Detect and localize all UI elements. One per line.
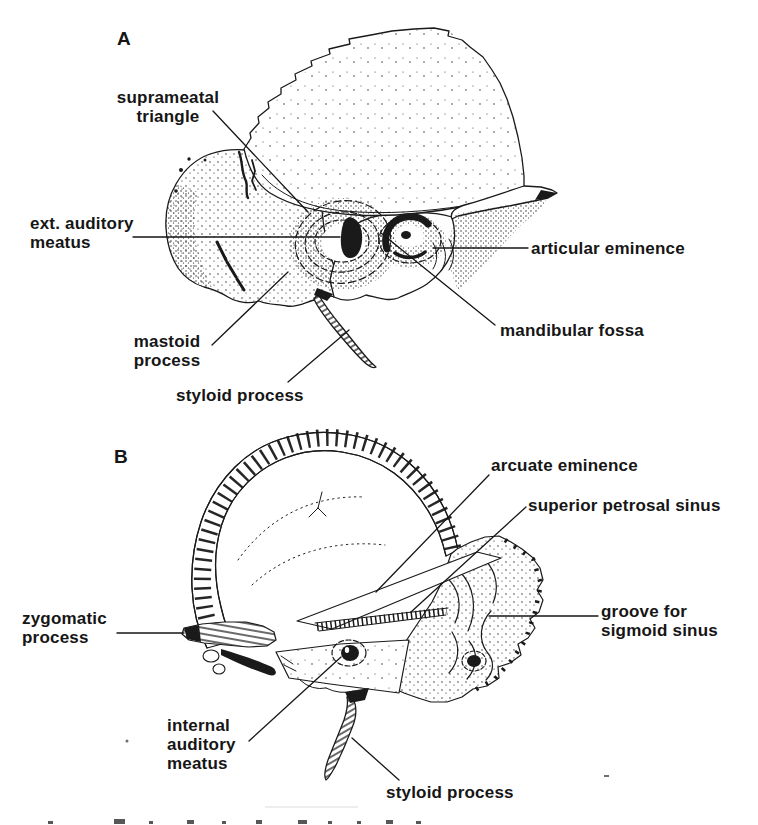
petrous-face-stipple [276, 640, 409, 693]
label-styloid-process-b: styloid process [386, 783, 514, 802]
panel-a-bone-illustration [133, 28, 557, 382]
leader-styloid-process-a [288, 330, 349, 382]
fossa-dark-center [401, 231, 411, 239]
panel-b-letter: B [114, 446, 128, 468]
panel-a-letter: A [117, 28, 131, 50]
label-articular-eminence: articular eminence [531, 239, 685, 258]
label-styloid-process-a: styloid process [176, 386, 304, 405]
label-mandibular-fossa: mandibular fossa [500, 321, 644, 340]
internal-auditory-meatus-opening [341, 645, 359, 661]
anatomy-diagram-page: A B suprameatal triangle ext. auditory m… [0, 0, 758, 825]
styloid-process-a [314, 294, 376, 368]
label-suprameatal-triangle: suprameatal triangle [105, 88, 231, 126]
label-arcuate-eminence: arcuate eminence [491, 456, 638, 475]
label-superior-petrosal-sinus: superior petrosal sinus [528, 496, 721, 515]
zygomatic-stub-tip [184, 625, 201, 642]
label-groove-for-sigmoid-sinus: groove for sigmoid sinus [601, 602, 718, 640]
iam-highlight [345, 647, 349, 653]
label-zygomatic-process: zygomatic process [22, 609, 107, 647]
band-end-lump-1 [203, 650, 219, 662]
styloid-process-b [325, 697, 356, 780]
label-ext-auditory-meatus: ext. auditory meatus [30, 214, 134, 252]
crevice-shadow [221, 649, 276, 675]
leader-styloid-process-b [352, 738, 399, 780]
band-end-lump-2 [213, 664, 225, 674]
cutoff-caption-fragment [48, 819, 421, 824]
label-internal-auditory-meatus: internal auditory meatus [167, 716, 236, 773]
label-mastoid-process: mastoid process [126, 332, 208, 370]
posterior-foramen [467, 655, 481, 667]
